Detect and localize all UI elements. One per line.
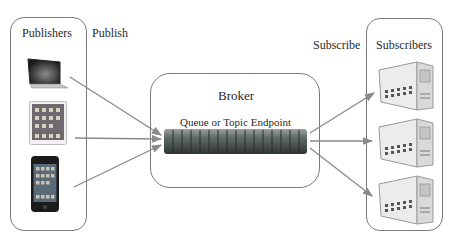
publish-arrow-tablet (75, 138, 161, 139)
publish-arrow-laptop (70, 77, 161, 135)
publish-arrow-phone (74, 145, 161, 187)
arrows-layer (0, 0, 453, 246)
subscribe-arrow-3 (310, 148, 372, 196)
subscribe-arrow-1 (310, 93, 374, 133)
